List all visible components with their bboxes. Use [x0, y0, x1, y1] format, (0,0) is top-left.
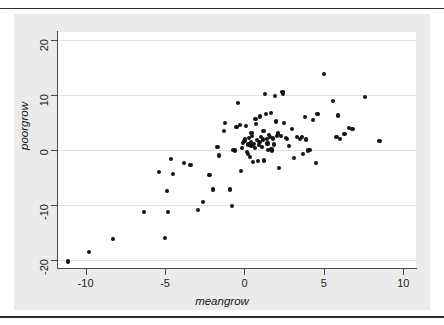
- x-tick-mark: [244, 269, 245, 275]
- y-tick-label: 20: [38, 39, 50, 51]
- data-point: [336, 113, 340, 117]
- data-point: [314, 161, 318, 165]
- page-rule-bottom: [0, 316, 444, 318]
- data-point: [342, 132, 346, 136]
- data-point: [165, 189, 169, 193]
- data-point: [292, 156, 296, 160]
- data-point: [350, 127, 354, 131]
- data-point: [301, 152, 305, 156]
- data-point: [244, 124, 248, 128]
- data-point: [272, 142, 276, 146]
- data-point: [228, 187, 232, 191]
- data-point: [363, 95, 367, 99]
- data-point: [171, 172, 175, 176]
- data-point: [258, 114, 262, 118]
- data-point: [188, 163, 192, 167]
- data-point: [315, 112, 319, 116]
- data-point: [265, 141, 269, 145]
- data-point: [238, 123, 242, 127]
- data-point: [201, 200, 205, 204]
- data-point: [233, 148, 237, 152]
- data-point: [274, 119, 278, 123]
- data-point: [249, 131, 253, 135]
- data-point: [239, 169, 243, 173]
- x-tick-mark: [324, 269, 325, 275]
- data-point: [377, 139, 381, 143]
- data-point: [66, 259, 70, 263]
- data-point: [248, 155, 252, 159]
- y-tick-mark: [51, 40, 57, 41]
- data-point: [262, 158, 266, 162]
- data-point: [282, 121, 286, 125]
- data-point: [264, 112, 268, 116]
- data-point: [338, 137, 342, 141]
- data-point: [87, 250, 91, 254]
- x-tick-mark: [86, 269, 87, 275]
- x-tick-mark: [165, 269, 166, 275]
- data-point: [236, 101, 240, 105]
- data-point: [279, 134, 283, 138]
- data-point: [285, 137, 289, 141]
- data-point: [217, 153, 221, 157]
- data-point: [157, 170, 161, 174]
- data-point: [253, 117, 257, 121]
- scatter-plot-figure: 20100-10-20 -10-50510 poorgrow meangrow: [0, 0, 444, 325]
- data-point: [207, 173, 211, 177]
- data-point: [256, 159, 260, 163]
- x-axis-line: [57, 268, 417, 269]
- plot-region: [57, 32, 416, 268]
- data-point: [270, 149, 274, 153]
- y-tick-mark: [51, 150, 57, 151]
- data-point: [169, 157, 173, 161]
- data-point: [111, 237, 115, 241]
- data-point: [322, 72, 326, 76]
- data-point: [142, 210, 146, 214]
- data-point: [215, 145, 219, 149]
- y-tick-label: 10: [38, 94, 50, 106]
- x-tick-label: -10: [66, 277, 106, 289]
- data-point: [311, 118, 315, 122]
- x-tick-label: 0: [224, 277, 264, 289]
- data-point: [230, 204, 234, 208]
- data-point: [304, 137, 308, 141]
- x-tick-mark: [403, 269, 404, 275]
- data-point: [307, 148, 311, 152]
- y-axis-line: [57, 31, 58, 269]
- data-point: [287, 144, 291, 148]
- data-point: [163, 236, 167, 240]
- data-point: [166, 210, 170, 214]
- data-point: [182, 161, 186, 165]
- data-point: [290, 127, 294, 131]
- gridline: [57, 260, 416, 261]
- y-tick-mark: [51, 205, 57, 206]
- x-tick-label: -5: [145, 277, 185, 289]
- data-point: [251, 160, 255, 164]
- x-axis-title: meangrow: [0, 295, 444, 307]
- data-point: [273, 94, 277, 98]
- x-tick-label: 10: [383, 277, 423, 289]
- y-tick-label: 0: [38, 149, 50, 155]
- data-point: [196, 208, 200, 212]
- data-point: [261, 129, 265, 133]
- data-point: [303, 115, 307, 119]
- data-point: [254, 122, 258, 126]
- page-rule-top: [0, 8, 444, 9]
- y-tick-label: -20: [38, 259, 50, 275]
- data-point: [300, 135, 304, 139]
- gridline: [57, 40, 416, 41]
- y-tick-mark: [51, 260, 57, 261]
- data-point: [331, 99, 335, 103]
- y-axis-title: poorgrow: [18, 102, 30, 150]
- data-point: [223, 121, 227, 125]
- data-point: [260, 145, 264, 149]
- data-point: [222, 129, 226, 133]
- gridline: [57, 205, 416, 206]
- data-point: [269, 111, 273, 115]
- y-tick-mark: [51, 95, 57, 96]
- x-tick-label: 5: [304, 277, 344, 289]
- y-tick-label: -10: [38, 204, 50, 220]
- data-point: [277, 166, 281, 170]
- data-point: [211, 187, 215, 191]
